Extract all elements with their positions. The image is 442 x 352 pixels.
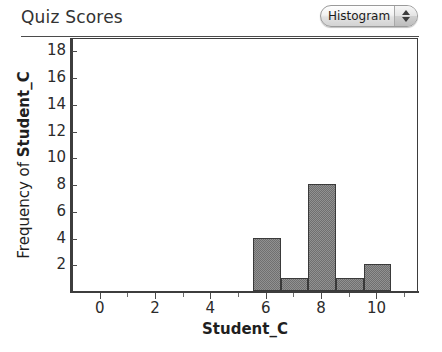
- x-tick-label: 2: [140, 301, 170, 316]
- y-tick-label: 12: [40, 124, 66, 139]
- y-tick-mark: [72, 51, 77, 52]
- y-tick-label: 10: [40, 150, 66, 165]
- y-tick-mark: [72, 212, 77, 213]
- y-tick-label: 6: [40, 204, 66, 219]
- histogram-bar: [253, 238, 281, 291]
- histogram-panel: Quiz Scores Histogram 24681012141618 024…: [0, 0, 442, 352]
- y-tick-label: 8: [40, 177, 66, 192]
- plot-type-dropdown[interactable]: Histogram: [320, 5, 418, 27]
- y-tick-label: 4: [40, 231, 66, 246]
- x-tick-label: 10: [361, 301, 391, 316]
- x-axis-label: Student_C: [72, 320, 418, 338]
- y-tick-mark: [72, 185, 77, 186]
- y-tick-mark: [72, 78, 77, 79]
- y-tick-label: 14: [40, 97, 66, 112]
- histogram-bar: [281, 278, 309, 291]
- plot-type-value: Histogram: [321, 6, 394, 26]
- y-tick-mark: [72, 265, 77, 266]
- x-tick-label: 8: [306, 301, 336, 316]
- bars-layer: [73, 39, 417, 291]
- x-tick-minor: [183, 293, 184, 297]
- y-tick-label: 18: [40, 43, 66, 58]
- page-title: Quiz Scores: [21, 7, 123, 27]
- y-tick-label: 16: [40, 70, 66, 85]
- plot-area: [72, 38, 418, 292]
- y-axis-label-prefix: Frequency of: [15, 157, 33, 258]
- x-tick-label: 0: [85, 301, 115, 316]
- triangle-down-icon[interactable]: [402, 17, 410, 22]
- histogram-bar: [308, 184, 336, 291]
- y-tick-mark: [72, 132, 77, 133]
- x-tick-minor: [404, 293, 405, 297]
- x-tick-label: 6: [251, 301, 281, 316]
- y-tick-mark: [72, 105, 77, 106]
- y-tick-mark: [72, 239, 77, 240]
- triangle-up-icon[interactable]: [402, 10, 410, 15]
- x-tick-minor: [127, 293, 128, 297]
- y-tick-label: 2: [40, 257, 66, 272]
- y-axis-label-variable: Student_C: [15, 71, 33, 157]
- y-tick-mark: [72, 158, 77, 159]
- x-tick-label: 4: [195, 301, 225, 316]
- x-tick-minor: [293, 293, 294, 297]
- y-axis-label: Frequency of Student_C: [15, 40, 33, 290]
- x-tick-minor: [349, 293, 350, 297]
- header-divider: [21, 36, 419, 37]
- plot-type-stepper[interactable]: [394, 6, 417, 26]
- histogram-bar: [336, 278, 364, 291]
- x-tick-minor: [238, 293, 239, 297]
- histogram-bar: [364, 264, 392, 291]
